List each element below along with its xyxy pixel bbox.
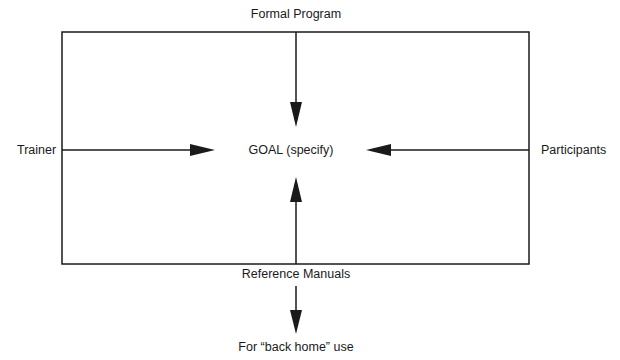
arrow-down-icon <box>290 286 302 334</box>
goal-diagram: Formal Program Trainer GOAL (specify) Pa… <box>0 0 620 360</box>
arrow-up-icon <box>290 177 302 264</box>
arrow-left-icon <box>366 144 529 156</box>
node-reference-manuals: Reference Manuals <box>242 267 350 282</box>
node-formal-program: Formal Program <box>251 7 341 22</box>
node-participants: Participants <box>541 143 606 158</box>
node-trainer: Trainer <box>17 143 56 158</box>
diagram-lines <box>0 0 620 360</box>
node-back-home-use: For “back home” use <box>238 340 353 355</box>
arrow-right-icon <box>62 144 215 156</box>
node-goal: GOAL (specify) <box>249 143 334 158</box>
arrow-down-icon <box>290 32 302 127</box>
